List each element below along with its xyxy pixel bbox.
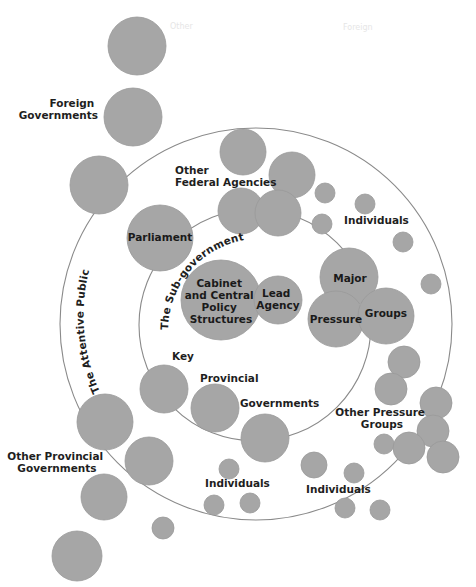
- major-label: Major: [333, 272, 367, 284]
- pressure-label: Pressure: [310, 313, 362, 325]
- individual-node: [355, 194, 375, 214]
- foreign-government-node: [108, 17, 166, 75]
- individual-node: [219, 459, 239, 479]
- individual-node: [370, 500, 390, 520]
- attentive-public-node: [70, 156, 128, 214]
- individual-node: [301, 452, 327, 478]
- key-provincial-government-node: [140, 365, 188, 413]
- foreign-government-node: [104, 88, 162, 146]
- other-pressure-group-node: [374, 434, 394, 454]
- other-pressure-group-node: [375, 373, 407, 405]
- individuals-bottom-right-label: Individuals: [306, 483, 371, 495]
- individual-node: [204, 495, 224, 515]
- individual-node: [315, 183, 335, 203]
- other-provincial-government-node: [77, 394, 133, 450]
- individuals-bottom-left-label: Individuals: [205, 477, 270, 489]
- attentive-public-label: The Attentive Public: [74, 268, 102, 396]
- key-label: Key: [172, 350, 194, 362]
- foreign-governments-label: Foreign Governments: [19, 97, 98, 121]
- federal-agency-node: [255, 190, 301, 236]
- individual-node: [421, 274, 441, 294]
- other-pressure-group-node: [427, 441, 459, 473]
- other-provincial-government-node: [52, 531, 102, 581]
- lead-agency-label: Lead Agency: [256, 287, 299, 311]
- individual-node: [335, 498, 355, 518]
- key-provincial-government-node: [241, 414, 289, 462]
- parliament-label: Parliament: [128, 231, 193, 243]
- key-provincial-government-node: [191, 384, 239, 432]
- other-provincial-government-node: [81, 474, 127, 520]
- individual-node: [312, 214, 332, 234]
- policy-community-diagram: Other Foreign The Atten: [0, 0, 476, 587]
- faint-text-left: Other: [170, 22, 193, 31]
- other-provincial-government-node: [152, 517, 174, 539]
- individual-node: [240, 493, 260, 513]
- individuals-top-label: Individuals: [344, 214, 409, 226]
- groups-label: Groups: [365, 307, 407, 319]
- other-provincial-governments-label: Other Provincial Governments: [7, 450, 107, 474]
- individual-node: [344, 463, 364, 483]
- governments-label: Governments: [240, 397, 319, 409]
- provincial-label: Provincial: [200, 372, 259, 384]
- federal-agency-node: [220, 129, 266, 175]
- individual-node: [393, 232, 413, 252]
- other-pressure-groups-label: Other Pressure Groups: [335, 406, 428, 430]
- other-pressure-group-node: [393, 432, 425, 464]
- other-provincial-government-node: [125, 437, 173, 485]
- faint-text-right: Foreign: [343, 23, 373, 32]
